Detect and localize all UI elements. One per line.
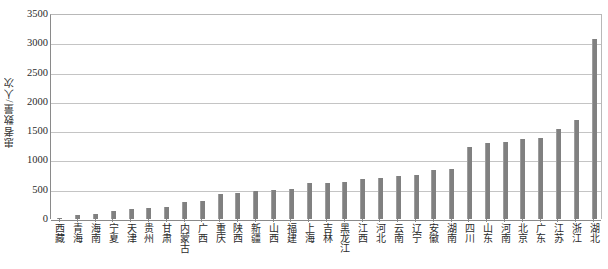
bar: [253, 191, 258, 219]
y-axis-tick-labels: 0500100015002000250030003500: [14, 0, 48, 230]
x-axis-category-label: 广东: [534, 223, 546, 243]
x-axis-tick: [504, 219, 505, 222]
x-axis-category-label: 福建: [284, 223, 296, 243]
x-axis-category-label: 黑龙江: [338, 223, 350, 253]
bar: [538, 138, 543, 219]
bar: [574, 120, 579, 219]
bar: [164, 207, 169, 219]
x-axis-category-label: 江西: [356, 223, 368, 243]
x-axis-tick: [130, 219, 131, 222]
x-axis-category-label: 北京: [516, 223, 528, 243]
x-axis-tick: [433, 219, 434, 222]
x-axis-category-label: 云南: [391, 223, 403, 243]
bar: [111, 211, 116, 219]
x-axis-tick: [237, 219, 238, 222]
y-axis-tick-label: 2500: [14, 68, 48, 78]
x-axis-tick: [575, 219, 576, 222]
x-axis-tick: [77, 219, 78, 222]
x-axis-category-label: 河北: [373, 223, 385, 243]
x-axis-tick: [468, 219, 469, 222]
y-axis-tick-label: 2000: [14, 97, 48, 107]
x-axis-category-label: 上海: [302, 223, 314, 243]
x-axis-category-label: 江苏: [551, 223, 563, 243]
x-axis-tick: [95, 219, 96, 222]
bar: [200, 201, 205, 219]
x-axis-tick: [486, 219, 487, 222]
bar: [414, 175, 419, 219]
x-axis-category-labels: 西藏青海海南宁夏天津贵州甘肃内蒙古广西重庆陕西新疆山西福建上海吉林黑龙江江西河北…: [50, 223, 602, 269]
x-axis-category-label: 内蒙古: [178, 223, 190, 253]
x-axis-category-label: 重庆: [213, 223, 225, 243]
bar: [235, 193, 240, 219]
x-axis-tick: [362, 219, 363, 222]
y-axis-tick-label: 3000: [14, 38, 48, 48]
bar: [289, 189, 294, 219]
x-axis-tick: [59, 219, 60, 222]
x-axis-tick: [540, 219, 541, 222]
bar: [218, 194, 223, 219]
x-axis-tick: [344, 219, 345, 222]
bar: [146, 208, 151, 219]
x-axis-category-label: 天津: [124, 223, 136, 243]
x-axis-category-label: 山东: [480, 223, 492, 243]
x-axis-tick: [166, 219, 167, 222]
bar: [129, 209, 134, 219]
x-axis-category-label: 贵州: [142, 223, 154, 243]
y-axis-tick-label: 0: [14, 214, 48, 224]
bar: [378, 178, 383, 219]
x-axis-tick: [557, 219, 558, 222]
x-axis-tick: [522, 219, 523, 222]
bar: [271, 190, 276, 219]
x-axis-category-label: 陕西: [231, 223, 243, 243]
x-axis-category-label: 海南: [89, 223, 101, 243]
bar: [592, 39, 597, 219]
x-axis-category-label: 河南: [498, 223, 510, 243]
bar: [360, 179, 365, 219]
x-axis-tick: [379, 219, 380, 222]
x-axis-tick: [148, 219, 149, 222]
x-axis-category-label: 青海: [71, 223, 83, 243]
y-axis-tick-label: 500: [14, 185, 48, 195]
x-axis-category-label: 湖南: [445, 223, 457, 243]
x-axis-category-label: 湖北: [587, 223, 599, 243]
x-axis-category-label: 辽宁: [409, 223, 421, 243]
x-axis-category-label: 吉林: [320, 223, 332, 243]
x-axis-category-label: 浙江: [569, 223, 581, 243]
bar: [431, 170, 436, 219]
x-axis-tick: [397, 219, 398, 222]
x-axis-tick: [255, 219, 256, 222]
x-axis-tick: [290, 219, 291, 222]
bar: [467, 147, 472, 219]
bar: [449, 169, 454, 219]
y-axis-tick-label: 1000: [14, 155, 48, 165]
bar: [485, 143, 490, 219]
x-axis-tick: [415, 219, 416, 222]
y-axis-tick-label: 1500: [14, 126, 48, 136]
bars-layer: [51, 15, 601, 219]
bar: [556, 129, 561, 219]
y-axis-tick-label: 3500: [14, 9, 48, 19]
x-axis-category-label: 甘肃: [160, 223, 172, 243]
x-axis-tick: [273, 219, 274, 222]
x-axis-category-label: 新疆: [249, 223, 261, 243]
x-axis-tick: [308, 219, 309, 222]
bar: [342, 182, 347, 219]
bar: [396, 176, 401, 219]
plot-area: [50, 14, 602, 219]
x-axis-tick: [112, 219, 113, 222]
bar: [182, 202, 187, 219]
bar-chart: 患者数量/人次 0500100015002000250030003500 西藏青…: [0, 0, 608, 269]
bar: [520, 139, 525, 219]
bar: [325, 183, 330, 219]
x-axis-category-label: 广西: [195, 223, 207, 243]
x-axis-tick: [219, 219, 220, 222]
x-axis-category-label: 山西: [267, 223, 279, 243]
x-axis-tick: [451, 219, 452, 222]
x-axis-category-label: 宁夏: [106, 223, 118, 243]
x-axis-tick: [326, 219, 327, 222]
x-axis-category-label: 四川: [462, 223, 474, 243]
bar: [307, 183, 312, 219]
x-axis-tick: [593, 219, 594, 222]
bar: [503, 142, 508, 219]
x-axis-category-label: 西藏: [53, 223, 65, 243]
